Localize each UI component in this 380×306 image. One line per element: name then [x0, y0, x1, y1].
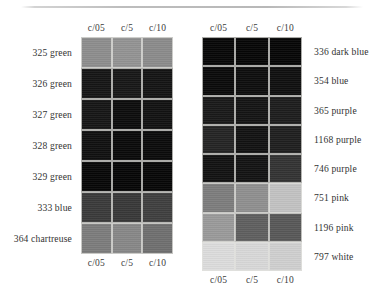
color-swatch — [202, 154, 235, 183]
color-swatch — [269, 66, 302, 95]
row-label: 354 blue — [308, 66, 380, 95]
color-swatch — [202, 125, 235, 154]
color-swatch — [235, 66, 268, 95]
color-swatch — [142, 130, 173, 161]
row-label: 365 purple — [308, 96, 380, 125]
right-panel-row-labels: 336 dark blue354 blue365 purple1168 purp… — [308, 37, 380, 271]
color-swatch — [81, 161, 112, 192]
color-swatch — [81, 223, 112, 254]
left-panel-column-headers-bottom: c/05 c/5 c/10 — [81, 256, 173, 270]
color-swatch — [269, 213, 302, 242]
color-swatch — [81, 192, 112, 223]
color-swatch — [235, 37, 268, 66]
color-swatch — [112, 130, 143, 161]
color-swatch — [235, 154, 268, 183]
row-label: 325 green — [0, 37, 76, 68]
color-swatch — [142, 99, 173, 130]
color-swatch — [142, 37, 173, 68]
color-swatch — [112, 161, 143, 192]
row-label: 364 chartreuse — [0, 223, 76, 254]
color-swatch — [235, 183, 268, 212]
color-swatch — [202, 183, 235, 212]
color-swatch — [269, 183, 302, 212]
color-swatch — [202, 242, 235, 271]
column-header-c05-bottom: c/05 — [202, 273, 235, 287]
row-label: 797 white — [308, 242, 380, 271]
color-swatch — [235, 125, 268, 154]
row-label: 751 pink — [308, 183, 380, 212]
row-label: 333 blue — [0, 192, 76, 223]
row-label: 327 green — [0, 99, 76, 130]
row-label: 329 green — [0, 161, 76, 192]
right-panel-column-headers-bottom: c/05 c/5 c/10 — [202, 273, 302, 287]
color-swatch — [269, 37, 302, 66]
right-swatch-grid — [202, 37, 302, 271]
color-swatch — [81, 37, 112, 68]
column-header-c10-bottom: c/10 — [269, 273, 302, 287]
color-swatch — [235, 213, 268, 242]
color-swatch — [112, 68, 143, 99]
left-panel-row-labels: 325 green326 green327 green328 green329 … — [0, 37, 76, 254]
color-swatch — [81, 68, 112, 99]
column-header-c5: c/5 — [235, 21, 268, 35]
color-swatch — [112, 99, 143, 130]
color-swatch — [202, 37, 235, 66]
row-label: 336 dark blue — [308, 37, 380, 66]
column-header-c10: c/10 — [269, 21, 302, 35]
color-swatch — [269, 125, 302, 154]
color-swatch — [81, 130, 112, 161]
column-header-c5: c/5 — [112, 21, 143, 35]
color-swatch — [112, 37, 143, 68]
row-label: 1196 pink — [308, 213, 380, 242]
column-header-c10: c/10 — [142, 21, 173, 35]
top-divider-rule — [21, 6, 363, 8]
column-header-c05-bottom: c/05 — [81, 256, 112, 270]
color-swatch — [202, 96, 235, 125]
left-panel-column-headers-top: c/05 c/5 c/10 — [81, 21, 173, 35]
color-swatch — [81, 99, 112, 130]
color-swatch — [235, 242, 268, 271]
row-label: 328 green — [0, 130, 76, 161]
column-header-c10-bottom: c/10 — [142, 256, 173, 270]
column-header-c5-bottom: c/5 — [112, 256, 143, 270]
color-swatch — [269, 96, 302, 125]
column-header-c5-bottom: c/5 — [235, 273, 268, 287]
left-swatch-grid — [81, 37, 173, 254]
color-swatch — [142, 68, 173, 99]
figure-canvas: c/05 c/5 c/10 325 green326 green327 gree… — [0, 0, 380, 306]
color-swatch — [269, 242, 302, 271]
row-label: 1168 purple — [308, 125, 380, 154]
color-swatch — [269, 154, 302, 183]
color-swatch — [142, 192, 173, 223]
color-swatch — [202, 66, 235, 95]
color-swatch — [142, 161, 173, 192]
color-swatch — [142, 223, 173, 254]
column-header-c05: c/05 — [81, 21, 112, 35]
column-header-c05: c/05 — [202, 21, 235, 35]
row-label: 326 green — [0, 68, 76, 99]
right-panel-column-headers-top: c/05 c/5 c/10 — [202, 21, 302, 35]
color-swatch — [235, 96, 268, 125]
row-label: 746 purple — [308, 154, 380, 183]
color-swatch — [112, 192, 143, 223]
color-swatch — [112, 223, 143, 254]
color-swatch — [202, 213, 235, 242]
